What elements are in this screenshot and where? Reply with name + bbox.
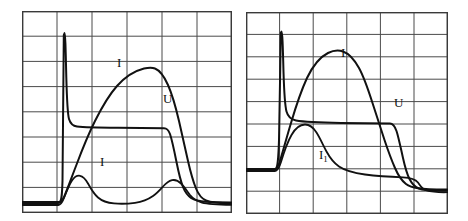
right-grid [246,12,448,214]
label-U: U [394,95,404,110]
label-I-upper: I [341,45,345,60]
oscillogram-figure: I U I [0,0,468,221]
right-oscillogram-panel: I U I1 [246,12,448,214]
label-I-lower: I [100,154,104,169]
left-grid [22,11,232,213]
left-oscillogram-svg: I U I [22,11,232,213]
label-I-upper: I [117,55,121,70]
right-oscillogram-svg: I U I1 [246,12,448,214]
label-U: U [163,91,173,106]
label-I1-lower: I1 [319,147,328,164]
left-oscillogram-panel: I U I [22,11,232,213]
